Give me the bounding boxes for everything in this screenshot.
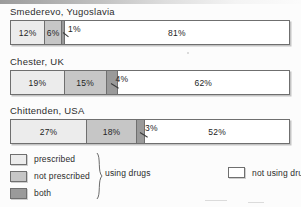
segment-value-label: 6% (47, 28, 60, 38)
segment-value-label: 15% (76, 78, 94, 88)
legend-group-label-using-drugs: using drugs (105, 168, 151, 178)
bar-segment-prescribed[interactable]: 27% (11, 120, 86, 143)
scan-speckle (187, 52, 189, 54)
stacked-bar-smederevo: 12% 6% 1% 81% (10, 20, 290, 45)
legend-using-drugs-group: prescribed not prescribed both (10, 151, 90, 202)
chart-panel-chittenden: Chittenden, USA 27% 18% 3% 52% (10, 105, 290, 144)
chart-title-chester: Chester, UK (10, 56, 290, 67)
segment-callout-both: 4% (116, 74, 129, 84)
bar-segment-not-prescribed[interactable]: 18% (86, 120, 136, 143)
legend-item-not-using-drugs[interactable]: not using drugs (228, 167, 301, 178)
chart-panel-chester: Chester, UK 19% 15% 4% 62% (10, 56, 290, 95)
legend-item-both[interactable]: both (10, 185, 90, 201)
bar-segment-not-using-drugs[interactable]: 81% (64, 21, 289, 44)
segment-value-label: 12% (19, 28, 37, 38)
bar-segment-not-prescribed[interactable]: 6% (44, 21, 61, 44)
segment-value-label: 4% (116, 74, 129, 84)
legend-item-prescribed[interactable]: prescribed (10, 151, 90, 167)
segment-callout-both: 3% (145, 123, 158, 133)
bar-segment-prescribed[interactable]: 19% (11, 71, 64, 94)
bar-segment-not-using-drugs[interactable]: 62% (117, 71, 289, 94)
chart-page: Smederevo, Yugoslavia 12% 6% 1% 81% Ches… (0, 0, 301, 207)
legend-label-prescribed: prescribed (34, 154, 75, 164)
bar-segment-not-using-drugs[interactable]: 52% (144, 120, 289, 143)
chart-title-smederevo: Smederevo, Yugoslavia (10, 6, 290, 17)
legend-swatch-not-using-drugs-icon (228, 167, 245, 178)
segment-callout-both: 1% (68, 24, 81, 34)
segment-value-label: 62% (194, 78, 212, 88)
bar-segment-prescribed[interactable]: 12% (11, 21, 44, 44)
bar-segment-not-prescribed[interactable]: 15% (64, 71, 106, 94)
segment-value-label: 52% (208, 127, 226, 137)
segment-value-label: 1% (68, 24, 81, 34)
legend-swatch-both-icon (10, 188, 27, 199)
curly-brace-icon (96, 152, 103, 200)
bar-segment-both[interactable]: 4% (106, 71, 117, 94)
segment-value-label: 3% (145, 123, 158, 133)
scan-speckle (248, 202, 264, 203)
legend-label-not-using-drugs: not using drugs (252, 168, 301, 178)
segment-value-label: 18% (103, 127, 121, 137)
legend-label-both: both (34, 188, 51, 198)
segment-value-label: 27% (40, 127, 58, 137)
chart-panel-smederevo: Smederevo, Yugoslavia 12% 6% 1% 81% (10, 6, 290, 45)
chart-legend: prescribed not prescribed both using dru… (10, 151, 293, 201)
legend-swatch-not-prescribed-icon (10, 171, 27, 182)
scan-speckle (205, 200, 227, 201)
legend-item-not-prescribed[interactable]: not prescribed (10, 168, 90, 184)
stacked-bar-chittenden: 27% 18% 3% 52% (10, 119, 290, 144)
stacked-bar-chester: 19% 15% 4% 62% (10, 70, 290, 95)
legend-swatch-prescribed-icon (10, 154, 27, 165)
bar-segment-both[interactable]: 3% (136, 120, 144, 143)
chart-title-chittenden: Chittenden, USA (10, 105, 290, 116)
scan-edge-artifact (0, 0, 301, 4)
segment-value-label: 19% (29, 78, 47, 88)
segment-value-label: 81% (168, 28, 186, 38)
legend-label-not-prescribed: not prescribed (34, 171, 90, 181)
